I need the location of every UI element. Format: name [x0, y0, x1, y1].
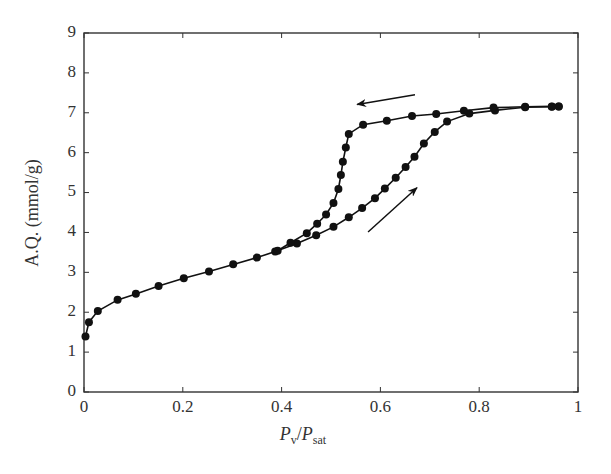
- data-point-marker: [81, 333, 89, 341]
- data-series: [81, 102, 562, 340]
- data-point-marker: [383, 117, 391, 125]
- series-line: [86, 106, 559, 336]
- x-tick-label: 1: [574, 397, 583, 416]
- data-point-marker: [521, 103, 529, 111]
- y-axis-ticks: 0123456789: [68, 22, 579, 400]
- data-point-marker: [431, 128, 439, 136]
- data-point-marker: [432, 110, 440, 118]
- data-point-marker: [402, 163, 410, 171]
- y-tick-label: 6: [68, 142, 77, 161]
- data-point-marker: [253, 254, 261, 262]
- y-tick-label: 8: [68, 62, 77, 81]
- data-point-marker: [205, 268, 213, 276]
- data-point-marker: [334, 185, 342, 193]
- data-point-marker: [358, 204, 366, 212]
- data-point-marker: [322, 210, 330, 218]
- x-tick-label: 0.6: [370, 397, 391, 416]
- y-tick-label: 9: [68, 22, 77, 41]
- data-point-marker: [342, 143, 350, 151]
- isotherm-chart: 0123456789 00.20.40.60.81 A.Q. (mmol/g) …: [0, 0, 611, 474]
- series-line: [278, 106, 559, 250]
- data-point-marker: [359, 121, 367, 129]
- y-tick-label: 4: [68, 221, 77, 240]
- y-tick-label: 3: [68, 261, 77, 280]
- data-point-marker: [313, 220, 321, 228]
- data-point-marker: [286, 239, 294, 247]
- data-point-marker: [420, 139, 428, 147]
- data-point-marker: [555, 102, 563, 110]
- data-point-marker: [155, 282, 163, 290]
- y-tick-label: 5: [68, 181, 77, 200]
- data-point-marker: [345, 130, 353, 138]
- plot-frame: [84, 33, 578, 392]
- data-point-marker: [345, 213, 353, 221]
- data-point-marker: [180, 274, 188, 282]
- data-point-marker: [408, 112, 416, 120]
- data-point-marker: [312, 231, 320, 239]
- data-point-marker: [329, 223, 337, 231]
- data-point-marker: [548, 102, 556, 110]
- data-point-marker: [132, 290, 140, 298]
- data-point-marker: [274, 247, 282, 255]
- data-point-marker: [303, 229, 311, 237]
- data-point-marker: [114, 296, 122, 304]
- data-point-marker: [381, 185, 389, 193]
- data-point-marker: [371, 194, 379, 202]
- x-tick-label: 0.2: [172, 397, 193, 416]
- y-axis-title: A.Q. (mmol/g): [22, 159, 43, 267]
- series-adsorption: [81, 102, 562, 340]
- x-tick-label: 0: [80, 397, 89, 416]
- data-point-marker: [339, 158, 347, 166]
- x-tick-label: 0.8: [469, 397, 490, 416]
- data-point-marker: [85, 318, 93, 326]
- data-point-marker: [392, 174, 400, 182]
- y-tick-label: 2: [68, 301, 77, 320]
- data-point-marker: [329, 199, 337, 207]
- x-tick-label: 0.4: [271, 397, 293, 416]
- data-point-marker: [410, 153, 418, 161]
- data-point-marker: [443, 118, 451, 126]
- data-point-marker: [229, 260, 237, 268]
- x-axis-title: Pv/Psat: [279, 424, 327, 447]
- data-point-marker: [490, 104, 498, 112]
- y-tick-label: 1: [68, 341, 77, 360]
- plot-border: [84, 33, 578, 392]
- desorption-direction-arrow-icon: [357, 95, 415, 105]
- y-tick-label: 7: [68, 102, 77, 121]
- data-point-marker: [94, 307, 102, 315]
- y-tick-label: 0: [68, 381, 77, 400]
- data-point-marker: [460, 107, 468, 115]
- data-point-marker: [337, 171, 345, 179]
